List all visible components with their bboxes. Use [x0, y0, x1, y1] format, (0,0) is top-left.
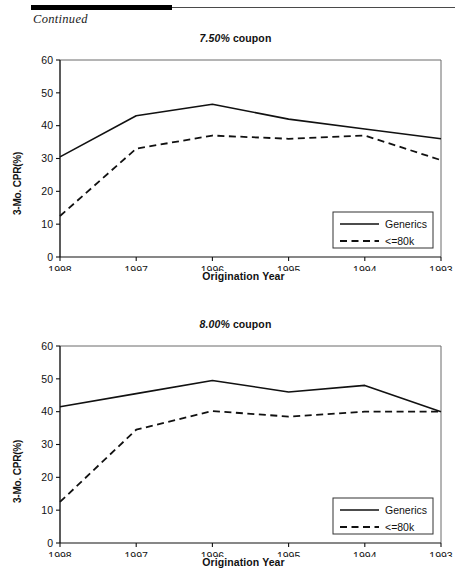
y-tick-label: 60 — [41, 54, 53, 66]
y-tick-label: 10 — [41, 504, 53, 516]
y-tick-label: 30 — [41, 152, 53, 164]
plot-area-2: 0102030405060199819971996199519941993Gen… — [0, 332, 471, 557]
chart-title-1-suffix: coupon — [230, 32, 272, 44]
series-line-generics — [60, 104, 441, 157]
legend-label: Generics — [385, 218, 427, 230]
continued-label: Continued — [33, 12, 88, 27]
header-rule — [31, 5, 455, 11]
page-header: Continued — [0, 0, 471, 30]
series-line-lte80k — [60, 411, 441, 502]
legend-label: <=80k — [385, 521, 415, 533]
chart-title-1: 7.50% coupon — [0, 32, 471, 44]
x-axis-label-2: Origination Year — [8, 556, 471, 568]
series-line-lte80k — [60, 136, 441, 216]
header-rule-thin — [172, 7, 455, 8]
y-tick-label: 30 — [41, 438, 53, 450]
chart-title-2-coupon: 8.00% — [200, 318, 230, 330]
legend-label: <=80k — [385, 235, 415, 247]
y-tick-label: 50 — [41, 87, 53, 99]
y-tick-label: 50 — [41, 373, 53, 385]
y-tick-label: 60 — [41, 340, 53, 352]
chart-7-50-coupon: 7.50% coupon 010203040506019981997199619… — [0, 32, 471, 287]
y-tick-label: 0 — [47, 251, 53, 263]
chart-8-00-coupon: 8.00% coupon 010203040506019981997199619… — [0, 318, 471, 571]
y-tick-label: 40 — [41, 405, 53, 417]
chart-title-2-suffix: coupon — [230, 318, 272, 330]
legend-label: Generics — [385, 504, 427, 516]
chart-title-1-coupon: 7.50% — [200, 32, 230, 44]
x-axis-label-1: Origination Year — [8, 270, 471, 282]
y-tick-label: 20 — [41, 185, 53, 197]
chart-title-2: 8.00% coupon — [0, 318, 471, 330]
y-tick-label: 20 — [41, 471, 53, 483]
y-tick-label: 0 — [47, 537, 53, 549]
plot-area-1: 0102030405060199819971996199519941993Gen… — [0, 46, 471, 271]
y-axis-label-1: 3-Mo. CPR(%) — [12, 152, 23, 215]
y-tick-label: 40 — [41, 119, 53, 131]
series-line-generics — [60, 380, 441, 411]
y-tick-label: 10 — [41, 218, 53, 230]
y-axis-label-2: 3-Mo. CPR(%) — [12, 440, 23, 503]
header-rule-thick — [31, 5, 172, 10]
